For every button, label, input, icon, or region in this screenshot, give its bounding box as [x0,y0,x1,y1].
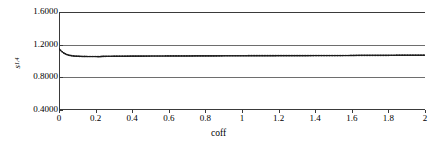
series-marker [361,54,363,56]
series-marker [411,54,413,56]
series-marker [383,54,385,56]
series-marker [292,55,294,57]
x-tick-label: 2 [410,113,437,123]
series-marker [297,55,299,57]
series-marker [170,55,172,57]
series-marker [181,55,183,57]
series-marker [146,55,148,57]
series-marker [228,55,230,57]
series-marker [384,54,386,56]
series-marker [220,55,222,57]
series-marker [176,55,178,57]
series-marker [313,55,315,57]
series-marker [195,55,197,57]
x-tick-label: 1.4 [300,113,330,123]
series-marker [206,55,208,57]
series-marker [322,55,324,57]
series-marker [136,55,138,57]
series-marker [216,55,218,57]
series-marker [72,55,74,57]
x-tick-label: 0 [44,113,74,123]
series-marker [305,55,307,57]
series-marker [303,55,305,57]
series-marker [92,56,94,58]
series-marker [68,54,70,56]
x-tick-label: 1 [227,113,257,123]
series-marker [135,55,137,57]
series-marker [205,55,207,57]
plot-area [59,12,425,110]
series-marker [267,55,269,57]
series-marker [346,55,348,57]
series-marker [254,55,256,57]
series-marker [192,55,194,57]
series-marker [162,55,164,57]
series-marker [408,54,410,56]
series-marker [198,55,200,57]
series-marker [154,55,156,57]
y-tick-label: 0.8000 [14,72,58,81]
series-marker [130,55,132,57]
series-marker [173,55,175,57]
series-marker [308,55,310,57]
series-marker [241,55,243,57]
series-marker [314,55,316,57]
series-marker [354,55,356,57]
series-marker [345,55,347,57]
series-marker [109,55,111,57]
series-marker [248,55,250,57]
series-marker [115,55,117,57]
series-marker [107,55,109,57]
series-marker [370,54,372,56]
series-marker [421,54,423,56]
series-marker [119,55,121,57]
series-marker [142,55,144,57]
series-marker [106,55,108,57]
series-marker [410,54,412,56]
series-marker [85,56,87,58]
series-marker [257,55,259,57]
series-marker [318,55,320,57]
series-marker [80,56,82,58]
series-marker [310,55,312,57]
series-marker [71,55,73,57]
series-marker [144,55,146,57]
x-tick-label: 0.8 [190,113,220,123]
series-marker [284,55,286,57]
series-marker [255,55,257,57]
series-marker [348,55,350,57]
series-marker [174,55,176,57]
series-marker [316,55,318,57]
series-marker [423,54,425,56]
series-marker [386,54,388,56]
series-marker [375,54,377,56]
series-marker [249,55,251,57]
series-marker [222,55,224,57]
series-marker [400,54,402,56]
data-series-s14 [59,12,425,110]
series-marker [413,54,415,56]
series-marker [150,55,152,57]
series-marker [373,54,375,56]
series-marker [397,54,399,56]
series-marker [96,56,98,58]
series-marker [349,55,351,57]
y-tick-label: 1.2000 [14,40,58,49]
series-marker [163,55,165,57]
series-marker [365,54,367,56]
series-marker [324,55,326,57]
series-marker [281,55,283,57]
x-tick-label: 0.6 [154,113,184,123]
series-marker [171,55,173,57]
y-tick-label: 1.6000 [14,7,58,16]
series-marker [402,54,404,56]
series-marker [184,55,186,57]
series-marker [98,56,100,58]
series-marker [260,55,262,57]
series-marker [217,55,219,57]
series-marker [407,54,409,56]
series-marker [225,55,227,57]
x-tick-label: 0.2 [81,113,111,123]
series-marker [203,55,205,57]
series-marker [133,55,135,57]
